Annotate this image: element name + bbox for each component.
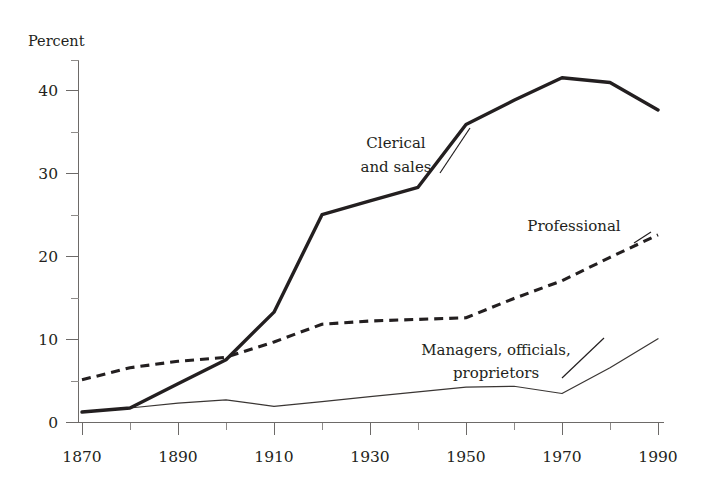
series-line-clerical: [82, 78, 658, 412]
annotation-managers: Managers, officials, proprietors: [421, 338, 604, 382]
series-line-managers: [82, 339, 658, 412]
chart-container: Percent 0 10 20 30 40: [0, 0, 701, 480]
x-tick-label-1890: 1890: [158, 448, 197, 466]
y-tick-label-10: 10: [38, 331, 58, 349]
series-line-professional: [82, 235, 658, 380]
y-tick-label-20: 20: [38, 248, 58, 266]
x-axis-ticks: [83, 423, 659, 436]
annotation-managers-line2: proprietors: [453, 364, 539, 382]
y-axis-title: Percent: [28, 33, 85, 49]
y-axis-major-ticks: [66, 91, 79, 423]
annotation-professional: Professional: [527, 217, 651, 243]
y-tick-label-40: 40: [38, 82, 58, 100]
y-tick-label-30: 30: [38, 165, 58, 183]
annotation-clerical-line2: and sales: [361, 158, 432, 176]
annotation-managers-line1: Managers, officials,: [421, 341, 571, 359]
annotation-clerical: Clerical and sales: [361, 128, 471, 176]
annotation-clerical-line1: Clerical: [366, 134, 425, 152]
x-tick-label-1990: 1990: [638, 448, 677, 466]
y-axis-minor-ticks: [71, 61, 79, 382]
x-tick-label-1910: 1910: [254, 448, 293, 466]
line-chart: Percent 0 10 20 30 40: [0, 0, 701, 480]
x-tick-label-1950: 1950: [446, 448, 485, 466]
y-tick-label-0: 0: [48, 414, 58, 432]
x-tick-label-1930: 1930: [350, 448, 389, 466]
x-tick-label-1970: 1970: [542, 448, 581, 466]
annotation-professional-line1: Professional: [527, 217, 621, 235]
x-tick-label-1870: 1870: [62, 448, 101, 466]
annotation-professional-leader: [634, 232, 651, 243]
